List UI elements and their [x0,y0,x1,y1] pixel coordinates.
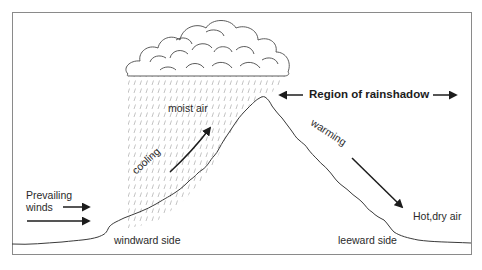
prevailing-winds-label-line1: Prevailing [26,190,72,201]
diagram-canvas [0,0,482,270]
leeward-side-label: leeward side [338,235,397,246]
mountain-profile [12,97,471,245]
rain-shadow-diagram: moist air cooling Prevailing winds windw… [0,0,482,270]
moist-air-label: moist air [168,103,208,114]
cloud-icon [126,21,289,77]
rainshadow-region-label: Region of rainshadow [309,89,429,101]
hot-dry-air-label: Hot,dry air [413,211,461,222]
prevailing-winds-label-line2: winds [26,202,53,213]
windward-side-label: windward side [114,235,181,246]
